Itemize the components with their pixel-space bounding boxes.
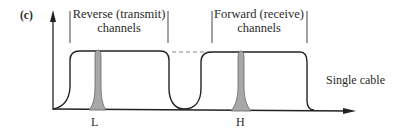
- low-carrier-peak: [89, 50, 106, 110]
- reverse-label-line2: channels: [68, 21, 170, 35]
- forward-channels-label: Forward (receive) channels: [208, 7, 310, 35]
- reverse-label-line1: Reverse (transmit): [68, 7, 170, 21]
- reverse-channels-label: Reverse (transmit) channels: [68, 7, 170, 35]
- y-axis-arrow-icon: [50, 10, 56, 22]
- low-marker-label: L: [91, 115, 98, 129]
- high-marker-label: H: [236, 115, 245, 129]
- forward-label-line2: channels: [208, 21, 310, 35]
- forward-label-line1: Forward (receive): [208, 7, 310, 21]
- panel-label: (c): [20, 8, 33, 22]
- high-carrier-peak: [231, 51, 251, 111]
- forward-band-envelope: [184, 52, 314, 110]
- band-diagram: [0, 0, 399, 134]
- reverse-band-envelope: [53, 51, 184, 109]
- single-cable-label: Single cable: [326, 73, 385, 87]
- x-axis-arrow-icon: [343, 108, 356, 114]
